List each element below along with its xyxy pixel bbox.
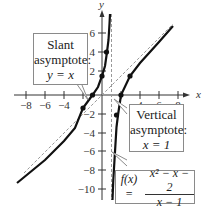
point-marker <box>99 73 104 78</box>
point-marker <box>80 105 85 110</box>
y-tick-label: −10 <box>78 183 96 195</box>
formula-denominator: x − 1 <box>145 195 194 208</box>
point-marker <box>114 112 119 117</box>
formula-lhs: f(x) = <box>116 172 142 202</box>
point-marker <box>127 73 132 78</box>
callout-pointers <box>74 80 127 166</box>
vertical-callout-line1: Vertical <box>130 107 183 122</box>
vertical-asymptote-callout: Vertical asymptote: x = 1 <box>129 104 184 152</box>
y-tick-label: −8 <box>83 164 95 176</box>
x-tick-label: −6 <box>39 99 51 111</box>
slant-asymptote-callout: Slant asymptote: y = x <box>33 33 88 85</box>
y-tick-label: −4 <box>83 127 95 139</box>
x-tick-label: −8 <box>20 99 32 111</box>
y-tick-label: −6 <box>83 145 95 157</box>
y-tick-label: 6 <box>90 27 96 39</box>
y-axis-label: y <box>98 0 104 10</box>
vertical-callout-line2: asymptote: <box>130 122 183 137</box>
point-marker <box>118 92 123 97</box>
slant-callout-line1: Slant <box>34 37 87 52</box>
formula-fraction: x² − x − 2 x − 1 <box>145 166 194 208</box>
slant-callout-line2: asymptote: <box>34 52 87 67</box>
x-axis-arrow-icon <box>183 93 190 98</box>
point-marker <box>104 49 109 54</box>
y-axis <box>100 10 105 200</box>
x-tick-label: −4 <box>58 99 70 111</box>
formula-numerator: x² − x − 2 <box>145 166 194 195</box>
vertical-callout-line3: x = 1 <box>130 137 183 152</box>
y-tick-label: −2 <box>83 108 95 120</box>
point-marker <box>90 92 95 97</box>
x-axis-label: x <box>195 88 201 100</box>
slant-callout-line3: y = x <box>34 67 87 82</box>
function-formula-callout: f(x) = x² − x − 2 x − 1 <box>115 170 195 204</box>
y-axis-arrow-icon <box>100 10 105 17</box>
